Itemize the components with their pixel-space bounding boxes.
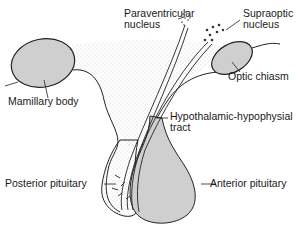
label-supraoptic-line2: nucleus xyxy=(243,18,279,30)
label-paraventricular-line2: nucleus xyxy=(124,18,160,30)
label-anterior-pituitary: Anterior pituitary xyxy=(210,177,287,189)
hypothalamus-pituitary-diagram: Paraventricular nucleus Supraoptic nucle… xyxy=(0,0,296,227)
label-tract-line2: tract xyxy=(170,121,191,133)
label-posterior-pituitary: Posterior pituitary xyxy=(5,177,87,189)
label-optic-chiasm: Optic chiasm xyxy=(228,70,289,82)
mamillary-body-shape xyxy=(7,33,80,93)
optic-nerve-line xyxy=(252,43,280,48)
label-mamillary-body: Mamillary body xyxy=(8,95,79,107)
supraoptic-nucleus-dots xyxy=(204,24,225,42)
